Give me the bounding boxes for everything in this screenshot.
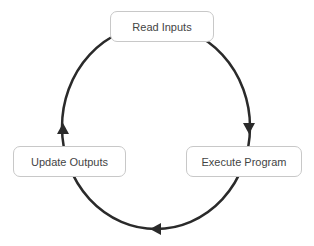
- node-label: Read Inputs: [132, 21, 191, 33]
- node-label: Update Outputs: [31, 156, 108, 168]
- arrow-up-icon: [57, 123, 69, 134]
- arrow-down-icon: [243, 123, 255, 134]
- arrow-left-icon: [150, 223, 161, 235]
- node-execute-program: Execute Program: [186, 146, 302, 177]
- node-label: Execute Program: [202, 156, 287, 168]
- node-read-inputs: Read Inputs: [110, 11, 214, 42]
- node-update-outputs: Update Outputs: [13, 146, 126, 177]
- cycle-ring: [62, 25, 250, 229]
